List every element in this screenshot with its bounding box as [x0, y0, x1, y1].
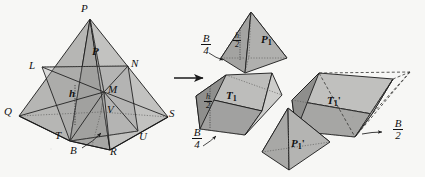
- piece-p1-group: [209, 12, 287, 73]
- vertex-label-L: L: [29, 60, 35, 71]
- piece-label-T1-main: T: [226, 89, 233, 101]
- piece-label-T1prime-main: T: [327, 94, 334, 106]
- piece-label-P1prime-main: P: [291, 137, 298, 149]
- t1-base-numerator: B: [191, 127, 203, 138]
- vertex-label-Q: Q: [4, 106, 12, 117]
- vertex-label-U: U: [139, 131, 147, 142]
- face-label-P: P: [92, 46, 99, 57]
- piece-label-T1-sub: 1: [233, 94, 237, 103]
- piece-label-T1: T1: [226, 90, 237, 103]
- p1-base-numerator: B: [200, 33, 212, 44]
- t1prime-base-callout-arrow: [362, 132, 382, 134]
- vertex-label-R: R: [110, 146, 117, 157]
- p1-base-fraction: B 4: [200, 33, 212, 56]
- base-label-B: B: [70, 145, 77, 156]
- piece-label-P1-sub: 1: [268, 38, 272, 47]
- t1prime-base-denominator: 2: [392, 130, 404, 141]
- t1-height-fraction: h 2: [203, 93, 213, 110]
- piece-label-P1prime-mark: ': [302, 137, 305, 149]
- p1-height-fraction: h 2: [232, 32, 242, 49]
- p1-height-denominator: 2: [232, 41, 242, 49]
- t1prime-base-numerator: B: [392, 118, 404, 129]
- t1prime-base-fraction: B 2: [392, 118, 404, 141]
- vertex-label-M: M: [108, 84, 117, 95]
- geometry-drawing: [0, 0, 425, 177]
- t1-base-fraction: B 4: [191, 127, 203, 150]
- vertex-label-T: T: [55, 130, 61, 141]
- t1-base-callout-arrow: [203, 136, 216, 146]
- t1-height-numerator: h: [203, 93, 213, 101]
- t1-base-denominator: 4: [191, 139, 203, 150]
- p1-base-denominator: 4: [200, 45, 212, 56]
- piece-label-P1-prime: P1': [291, 138, 305, 151]
- vertex-label-S: S: [169, 108, 175, 119]
- piece-label-P1-main: P: [261, 33, 268, 45]
- piece-label-T1-prime: T1': [327, 95, 341, 108]
- height-label-h: h: [69, 88, 75, 99]
- p1-height-numerator: h: [232, 32, 242, 40]
- vertex-label-P: P: [81, 3, 88, 14]
- vertex-label-V: V: [107, 104, 114, 115]
- figure-canvas: P L N M V Q S T U R B P h P1 h 2 B 4 T1 …: [0, 0, 425, 177]
- p1prime-face-left: [262, 108, 289, 170]
- piece-label-T1prime-mark: ': [338, 94, 341, 106]
- piece-label-P1: P1: [261, 34, 272, 47]
- vertex-label-N: N: [131, 58, 138, 69]
- t1-height-denominator: 2: [203, 102, 213, 110]
